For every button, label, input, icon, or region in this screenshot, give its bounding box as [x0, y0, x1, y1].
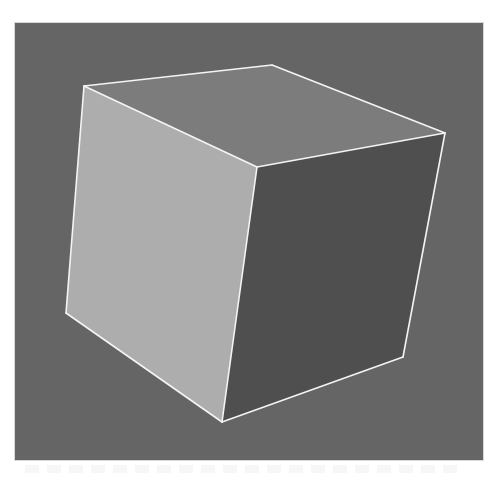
cropped-caption [25, 465, 465, 473]
cube-scene [0, 0, 498, 478]
